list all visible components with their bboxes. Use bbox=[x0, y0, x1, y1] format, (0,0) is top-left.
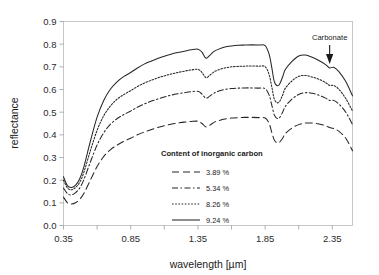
legend-entries: 3.89 %5.34 %8.26 %9.24 % bbox=[172, 168, 229, 225]
legend: Content of inorganic carbon 3.89 %5.34 %… bbox=[161, 149, 263, 225]
legend-label: 9.24 % bbox=[206, 216, 229, 225]
y-tick-label: 0.4 bbox=[43, 129, 56, 140]
legend-label: 8.26 % bbox=[206, 200, 229, 209]
x-tick-label: 2.35 bbox=[323, 233, 342, 244]
series-line-9-24- bbox=[64, 45, 353, 188]
x-tick-label: 1.85 bbox=[256, 233, 275, 244]
chart-figure: 0.00.10.20.30.40.50.60.70.80.9 0.350.851… bbox=[0, 0, 379, 275]
series-group bbox=[64, 45, 353, 204]
y-tick-label: 0.5 bbox=[43, 107, 56, 118]
y-tick-label: 0.6 bbox=[43, 84, 56, 95]
y-tick-label: 0.7 bbox=[43, 61, 56, 72]
y-tick-label: 0.8 bbox=[43, 39, 56, 50]
carbonate-label: Carbonate bbox=[312, 33, 347, 42]
y-axis-ticks: 0.00.10.20.30.40.50.60.70.80.9 bbox=[43, 16, 63, 231]
reflectance-spectra-chart: 0.00.10.20.30.40.50.60.70.80.9 0.350.851… bbox=[0, 0, 379, 275]
y-tick-label: 0.1 bbox=[43, 197, 56, 208]
legend-title: Content of inorganic carbon bbox=[161, 149, 263, 158]
carbonate-arrow-head-icon bbox=[326, 54, 333, 64]
x-tick-label: 0.85 bbox=[121, 233, 140, 244]
x-axis-title: wavelength [µm] bbox=[169, 258, 247, 270]
y-tick-label: 0.2 bbox=[43, 175, 56, 186]
x-axis-ticks: 0.350.851.351.852.35 bbox=[54, 226, 341, 244]
y-tick-label: 0.0 bbox=[43, 220, 56, 231]
x-tick-label: 1.35 bbox=[189, 233, 208, 244]
y-tick-label: 0.3 bbox=[43, 152, 56, 163]
legend-label: 5.34 % bbox=[206, 184, 229, 193]
plot-area-frame bbox=[64, 22, 353, 226]
y-tick-label: 0.9 bbox=[43, 16, 56, 27]
y-axis-title: reflectance bbox=[8, 97, 20, 149]
legend-label: 3.89 % bbox=[206, 168, 229, 177]
x-tick-label: 0.35 bbox=[54, 233, 73, 244]
series-line-5-34- bbox=[64, 88, 353, 195]
